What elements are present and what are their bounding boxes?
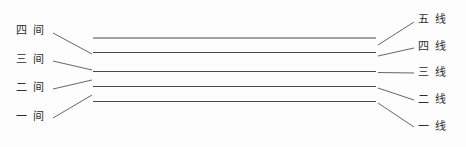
leader-line-space-1: [53, 95, 92, 118]
space-label-4: 四 间: [16, 25, 46, 36]
leader-line-space-4: [53, 33, 92, 54]
space-label-1: 一 间: [16, 111, 46, 122]
line-label-2: 二 线: [418, 94, 448, 105]
space-label-2: 二 间: [16, 82, 46, 93]
line-label-5: 五 线: [418, 14, 448, 25]
leader-line-line-2: [378, 88, 414, 100]
staff-lines-svg: [0, 0, 466, 147]
leader-line-space-2: [53, 80, 92, 89]
staff-diagram: 四 间三 间二 间一 间 五 线四 线三 线二 线一 线: [0, 0, 466, 147]
line-label-4: 四 线: [418, 41, 448, 52]
staff-lines-group: [93, 38, 376, 102]
leader-line-line-4: [378, 48, 414, 56]
leader-line-line-3: [378, 73, 414, 74]
leader-line-space-3: [53, 61, 92, 70]
leader-line-line-1: [378, 103, 414, 127]
line-label-1: 一 线: [418, 121, 448, 132]
space-label-3: 三 间: [16, 54, 46, 65]
leader-line-line-5: [378, 22, 414, 45]
line-label-3: 三 线: [418, 67, 448, 78]
